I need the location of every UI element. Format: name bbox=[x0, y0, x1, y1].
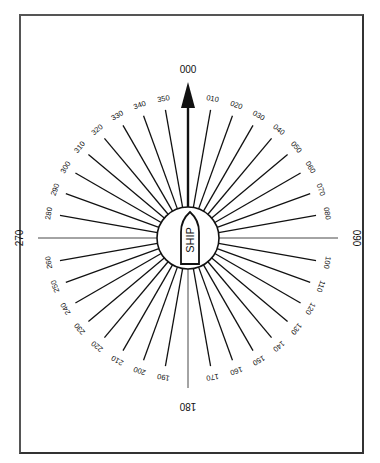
bearing-label-070: 070 bbox=[315, 182, 328, 197]
heading-arrow-icon bbox=[181, 82, 195, 108]
bearing-label-280: 280 bbox=[43, 206, 54, 220]
bearing-label-240: 240 bbox=[58, 301, 72, 316]
spoke-240 bbox=[75, 254, 161, 304]
spoke-300 bbox=[75, 173, 161, 223]
bearing-label-120: 120 bbox=[304, 301, 318, 316]
bearing-label-180: 180 bbox=[179, 401, 196, 412]
spoke-070 bbox=[217, 194, 310, 228]
spoke-280 bbox=[60, 215, 157, 232]
spoke-010 bbox=[193, 110, 210, 207]
bearing-label-310: 310 bbox=[72, 139, 87, 154]
bearing-label-270: 270 bbox=[14, 229, 25, 246]
bearing-label-300: 300 bbox=[58, 160, 72, 175]
bearing-label-220: 220 bbox=[89, 339, 104, 354]
bearing-label-190: 190 bbox=[156, 372, 170, 383]
ship-label: SHIP bbox=[184, 227, 196, 253]
bearing-label-050: 050 bbox=[289, 139, 304, 154]
bearing-label-290: 290 bbox=[49, 182, 62, 197]
spoke-120 bbox=[215, 254, 301, 304]
bearing-label-060: 060 bbox=[304, 160, 318, 175]
bearing-label-170: 170 bbox=[206, 372, 220, 383]
spoke-330 bbox=[123, 125, 173, 211]
bearing-label-330: 330 bbox=[110, 108, 125, 122]
bearing-label-110: 110 bbox=[315, 279, 328, 293]
bearing-compass: 0000100200300400500600700800901001101201… bbox=[0, 0, 380, 463]
spoke-350 bbox=[165, 110, 182, 207]
spoke-170 bbox=[193, 269, 210, 366]
bearing-label-130: 130 bbox=[289, 321, 304, 336]
bearing-label-160: 160 bbox=[229, 365, 244, 378]
bearing-label-140: 140 bbox=[271, 339, 286, 354]
spoke-030 bbox=[204, 125, 254, 211]
spoke-060 bbox=[215, 173, 301, 223]
bearing-label-250: 250 bbox=[49, 279, 62, 294]
spoke-110 bbox=[217, 249, 310, 283]
bearing-label-150: 150 bbox=[251, 354, 266, 368]
bearing-label-010: 010 bbox=[206, 93, 220, 104]
spoke-340 bbox=[144, 116, 178, 209]
spoke-260 bbox=[60, 243, 157, 260]
bearing-label-040: 040 bbox=[271, 122, 286, 137]
bearing-label-210: 210 bbox=[110, 354, 125, 368]
spoke-080 bbox=[219, 215, 316, 232]
spoke-150 bbox=[204, 265, 254, 351]
bearing-label-100: 100 bbox=[322, 256, 333, 270]
bearing-label-020: 020 bbox=[229, 99, 244, 112]
spoke-290 bbox=[66, 194, 159, 228]
spoke-250 bbox=[66, 249, 159, 283]
spoke-210 bbox=[123, 265, 173, 351]
bearing-label-350: 350 bbox=[156, 93, 170, 104]
bearing-label-090: 090 bbox=[351, 230, 362, 247]
bearing-label-230: 230 bbox=[72, 321, 87, 336]
bearing-label-320: 320 bbox=[89, 122, 104, 137]
spoke-160 bbox=[199, 267, 233, 360]
bearing-label-200: 200 bbox=[132, 365, 147, 378]
spoke-100 bbox=[219, 243, 316, 260]
bearing-label-000: 000 bbox=[180, 64, 197, 75]
bearing-label-340: 340 bbox=[132, 99, 147, 112]
spoke-190 bbox=[165, 269, 182, 366]
bearing-label-030: 030 bbox=[251, 108, 266, 122]
bearing-label-080: 080 bbox=[322, 206, 333, 220]
spoke-200 bbox=[144, 267, 178, 360]
spoke-020 bbox=[199, 116, 233, 209]
bearing-label-260: 260 bbox=[43, 256, 54, 270]
